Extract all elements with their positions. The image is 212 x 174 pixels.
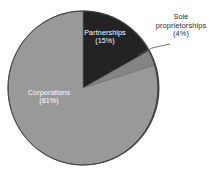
pie-label-corporations-percent: (81%) — [8, 97, 90, 105]
pie-chart-figure: Corporations (81%) Partnerships (15%) So… — [0, 0, 212, 174]
pie-label-partnerships-percent: (15%) — [74, 37, 136, 45]
pie-label-partnerships: Partnerships (15%) — [74, 29, 136, 46]
pie-label-sole-proprietorships: Sole proprietorships (4%) — [150, 13, 212, 39]
pie-label-corporations: Corporations (81%) — [8, 89, 90, 106]
pie-label-sole-percent: (4%) — [150, 30, 212, 39]
